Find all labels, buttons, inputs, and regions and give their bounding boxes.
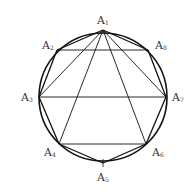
segment-A4-A5	[59, 144, 103, 163]
label-a3: A3	[21, 92, 33, 103]
label-a4: A4	[44, 147, 56, 158]
label-a1: A1	[97, 15, 109, 26]
label-a8: A8	[155, 40, 167, 51]
segment-A1-A4	[59, 30, 103, 144]
segment-A5-A6	[103, 144, 146, 163]
label-a7: A7	[172, 92, 184, 103]
label-a2: A2	[42, 40, 54, 51]
segments	[39, 30, 166, 163]
label-a6: A6	[152, 147, 164, 158]
segment-A2-A3	[39, 50, 57, 97]
segment-A1-A6	[103, 30, 146, 144]
segment-A3-A4	[39, 97, 59, 144]
label-a5: A5	[97, 172, 109, 183]
